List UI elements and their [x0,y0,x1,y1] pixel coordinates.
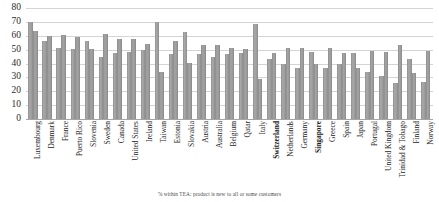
y-tick-label: 30 [12,73,22,83]
bar [426,51,431,119]
bar [412,73,417,119]
bar [215,45,220,119]
y-tick-label: 40 [12,59,22,69]
gridline-0 [26,119,433,120]
bar [187,63,192,119]
bar-group [236,8,250,119]
x-tick-cell: Australia [208,121,222,183]
bar [173,41,178,119]
bar-group [279,8,293,119]
bar-group [26,8,40,119]
x-tick-cell: Ireland [138,121,152,183]
bar [201,45,206,119]
x-tick-cell: Belgium [222,121,236,183]
bar [47,36,52,119]
x-tick-cell: Estonia [166,121,180,183]
bar-group [419,8,433,119]
bar-group [208,8,222,119]
x-tick-cell: Norway [419,121,433,183]
bar-group [54,8,68,119]
bar [314,64,319,120]
bar [300,48,305,119]
bar [370,51,375,119]
bar-group [40,8,54,119]
x-tick-cell: Qatar [236,121,250,183]
bar-group [96,8,110,119]
y-tick-label: 60 [12,31,22,41]
bar [328,48,333,119]
y-tick-label: 0 [16,114,21,124]
x-tick-cell: Trinidad & Tobago [391,121,405,183]
bar-group [377,8,391,119]
x-tick-cell: Germany [293,121,307,183]
bar-group [391,8,405,119]
chart-container: 01020304050607080 LuxembourgDenmarkFranc… [0,0,439,202]
x-tick-cell: Finland [405,121,419,183]
x-tick-cell: Singapore [307,121,321,183]
bar [243,49,248,119]
x-tick-label: Norway [426,121,435,145]
x-tick-cell: Austria [194,121,208,183]
bar [272,53,277,119]
bar [145,44,150,119]
x-tick-cell: Taiwan [152,121,166,183]
x-tick-cell: Slovenia [82,121,96,183]
bar-group [293,8,307,119]
bar-series-group [26,8,433,119]
bar [398,45,403,119]
y-tick-label: 80 [12,3,22,13]
x-tick-cell: United Kingdom [377,121,391,183]
bar-group [152,8,166,119]
y-tick-label: 70 [12,17,22,27]
x-tick-cell: Denmark [40,121,54,183]
x-tick-cell: Portugal [363,121,377,183]
x-tick-cell: Japan [349,121,363,183]
bar [75,37,80,119]
bar-group [321,8,335,119]
bar-group [251,8,265,119]
bar [159,72,164,119]
bar [286,48,291,119]
bar [356,68,361,119]
plot-area [26,8,433,119]
x-tick-cell: Canada [110,121,124,183]
bar [384,52,389,119]
y-tick-label: 50 [12,45,22,55]
bar-group [138,8,152,119]
bar-group [222,8,236,119]
bar [229,48,234,119]
x-tick-cell: Netherlands [279,121,293,183]
bar-group [180,8,194,119]
y-tick-label: 20 [12,87,22,97]
bar-group [110,8,124,119]
bar-group [194,8,208,119]
x-tick-cell: Sweden [96,121,110,183]
bar [33,31,38,119]
bar [342,53,347,119]
bar-group [335,8,349,119]
bar-group [124,8,138,119]
x-tick-cell: Italy [251,121,265,183]
bar [103,34,108,119]
x-tick-cell: France [54,121,68,183]
bar-group [68,8,82,119]
bar-group [82,8,96,119]
bar-group [405,8,419,119]
bar [61,35,66,119]
bar [117,39,122,119]
x-tick-cell: Slovakia [180,121,194,183]
bar-group [265,8,279,119]
chart-footnote: % within TEA: product is new to all or s… [0,191,439,197]
y-axis-tick-labels: 01020304050607080 [0,8,24,119]
x-tick-cell: Greece [321,121,335,183]
bar [131,39,136,119]
bar [89,49,94,119]
x-tick-cell: United States [124,121,138,183]
bar-group [166,8,180,119]
y-tick-label: 10 [12,100,22,110]
x-tick-cell: Spain [335,121,349,183]
bar [258,79,263,119]
bar-group [307,8,321,119]
x-tick-cell: Switzerland [265,121,279,183]
x-tick-cell: Puerto Rico [68,121,82,183]
